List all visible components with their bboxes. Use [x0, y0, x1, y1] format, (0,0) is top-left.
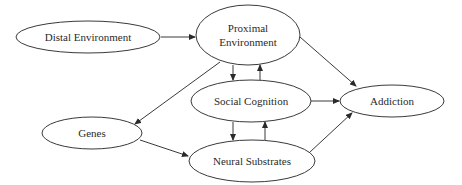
node-label: Genes — [78, 127, 106, 139]
ellipse-shape — [196, 5, 300, 65]
node-label-line2: Environment — [219, 36, 276, 48]
node-neural-substrates: Neural Substrates — [189, 140, 315, 182]
node-social-cognition: Social Cognition — [191, 80, 311, 122]
node-label: Addiction — [370, 95, 414, 107]
diagram-canvas: Distal Environment Proximal Environment … — [0, 0, 462, 185]
node-addiction: Addiction — [340, 85, 444, 117]
node-label: Distal Environment — [45, 31, 131, 43]
node-label-line1: Proximal — [228, 22, 268, 34]
edge-proximal-to-addiction — [300, 37, 356, 86]
edge-neural-to-addiction — [310, 113, 352, 152]
diagram-svg: Distal Environment Proximal Environment … — [0, 0, 462, 185]
node-label: Neural Substrates — [213, 155, 291, 167]
node-genes: Genes — [42, 117, 142, 149]
node-label: Social Cognition — [214, 95, 289, 107]
edge-genes-to-neural — [140, 140, 188, 156]
node-distal-environment: Distal Environment — [16, 21, 160, 53]
node-proximal-environment: Proximal Environment — [196, 5, 300, 65]
